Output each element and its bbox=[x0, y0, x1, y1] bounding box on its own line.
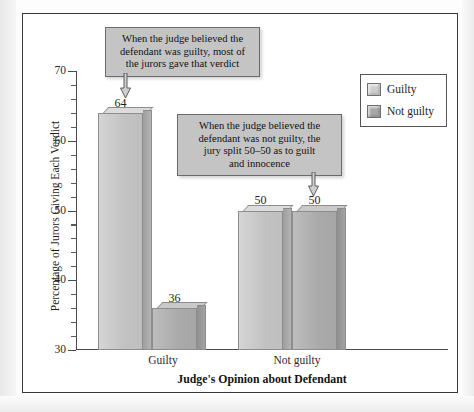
chart-legend: Guilty Not guilty bbox=[360, 74, 447, 127]
y-tick-minor-52 bbox=[71, 197, 77, 198]
callout-2-line-1: When the judge believed the bbox=[184, 120, 335, 133]
y-tick-40 bbox=[68, 280, 76, 281]
y-tick-minor-62 bbox=[71, 127, 77, 128]
y-tick-minor-36 bbox=[71, 308, 77, 309]
y-axis-title: Percentage of Jurors Giving Each Verdict bbox=[49, 89, 61, 344]
y-tick-minor-56 bbox=[71, 169, 77, 170]
scan-edge-right bbox=[462, 0, 474, 412]
y-tick-label-30: 30 bbox=[23, 343, 66, 355]
y-tick-30 bbox=[68, 350, 76, 351]
callout-1-line-2: defendant was guilty, most of bbox=[112, 46, 253, 59]
x-tick-label-not-guilty: Not guilty bbox=[242, 354, 352, 366]
bar-guilty-notguilty bbox=[152, 308, 197, 350]
y-tick-minor-54 bbox=[71, 183, 77, 184]
x-tick-label-guilty: Guilty bbox=[113, 354, 213, 366]
scan-edge-left bbox=[0, 0, 16, 412]
legend-swatch-not-guilty-icon bbox=[367, 105, 381, 118]
y-tick-minor-34 bbox=[71, 322, 77, 323]
legend-label-guilty: Guilty bbox=[387, 83, 416, 95]
y-tick-label-70: 70 bbox=[23, 64, 66, 76]
x-axis-title: Judge's Opinion about Defendant bbox=[76, 372, 448, 387]
callout-2-line-4: and innocence bbox=[184, 158, 335, 171]
figure-frame: 70 60 50 40 30 Percentage of Jurors Givi… bbox=[22, 13, 458, 393]
y-tick-minor-46 bbox=[71, 238, 77, 239]
y-tick-minor-68 bbox=[71, 85, 77, 86]
y-tick-minor-44 bbox=[71, 252, 77, 253]
y-tick-minor-38 bbox=[71, 294, 77, 295]
legend-item-not-guilty: Not guilty bbox=[367, 101, 434, 121]
callout-1-line-1: When the judge believed the bbox=[112, 33, 253, 46]
legend-swatch-guilty-icon bbox=[367, 83, 381, 96]
y-tick-70 bbox=[68, 71, 76, 72]
callout-box-not-guilty: When the judge believed the defendant wa… bbox=[177, 114, 342, 176]
y-tick-60 bbox=[68, 141, 76, 142]
bar-notguilty-guilty bbox=[238, 211, 283, 351]
y-axis-line bbox=[76, 71, 77, 350]
y-tick-minor-58 bbox=[71, 155, 77, 156]
scan-edge-bottom bbox=[0, 396, 474, 412]
callout-2-line-2: defendant was not guilty, the bbox=[184, 133, 335, 146]
callout-1-line-3: the jurors gave that verdict bbox=[112, 58, 253, 71]
callout-2-line-3: jury split 50–50 as to guilt bbox=[184, 145, 335, 158]
callout-1-arrow-icon bbox=[119, 73, 132, 100]
y-tick-minor-48 bbox=[71, 224, 77, 225]
y-tick-minor-64 bbox=[71, 113, 77, 114]
bar-notguilty-notguilty bbox=[292, 211, 337, 351]
callout-2-arrow-icon bbox=[307, 172, 320, 198]
y-tick-50 bbox=[68, 211, 76, 212]
bar-guilty-guilty bbox=[98, 113, 143, 350]
y-tick-minor-32 bbox=[71, 336, 77, 337]
y-tick-minor-42 bbox=[71, 266, 77, 267]
legend-label-not-guilty: Not guilty bbox=[387, 105, 434, 117]
bar-chart-plot: 70 60 50 40 30 Percentage of Jurors Givi… bbox=[23, 14, 459, 394]
legend-item-guilty: Guilty bbox=[367, 79, 416, 99]
y-tick-minor-66 bbox=[71, 99, 77, 100]
callout-box-guilty: When the judge believed the defendant wa… bbox=[105, 27, 260, 77]
bar-value-36: 36 bbox=[142, 291, 207, 306]
